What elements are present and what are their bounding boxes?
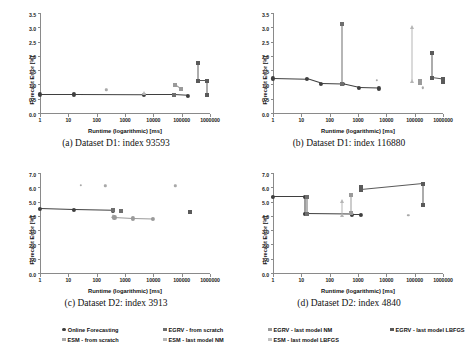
x-tick-label: 100000: [173, 277, 190, 283]
y-tick-label: 6.0: [29, 186, 36, 192]
data-point: [421, 182, 425, 186]
x-tick-label: 100: [325, 117, 333, 123]
legend-marker: [62, 338, 66, 342]
x-tick-label: 10: [299, 277, 305, 283]
data-point: [38, 92, 42, 96]
x-tick-label: 10: [66, 277, 72, 283]
data-point: [196, 79, 200, 83]
legend-label: ESM - last model NM: [169, 337, 224, 343]
y-tick: [271, 27, 274, 28]
x-tick-label: 1000000: [200, 117, 220, 123]
y-tick: [38, 56, 41, 57]
data-point: [80, 184, 82, 186]
x-axis-title-c: Runtime (logarithmic) [ms]: [40, 288, 210, 294]
x-tick-label: 100: [92, 277, 100, 283]
subplot-a: Forecast Error [%] 0.00.51.01.52.02.53.0…: [0, 0, 232, 160]
data-point: [340, 213, 344, 217]
data-point: [72, 208, 76, 212]
data-point: [377, 86, 381, 90]
y-tick: [271, 70, 274, 71]
legend-label: EGRV - last model LBFGS: [396, 327, 465, 333]
y-tick: [38, 244, 41, 245]
x-tick-label: 1000: [119, 277, 130, 283]
y-tick-label: 3.5: [29, 12, 36, 18]
data-point: [72, 92, 76, 96]
y-tick: [271, 84, 274, 85]
data-point: [319, 82, 323, 86]
y-tick-label: 3.0: [29, 26, 36, 32]
data-point: [119, 209, 123, 213]
x-tick-label: 10000: [379, 117, 393, 123]
y-tick: [271, 259, 274, 260]
y-tick: [38, 84, 41, 85]
y-tick-label: 0.0: [262, 272, 269, 278]
data-point: [142, 91, 146, 95]
series-line: [321, 83, 343, 85]
y-tick-label: 3.5: [262, 12, 269, 18]
x-tick-label: 1: [272, 277, 275, 283]
legend-item: Online Forecasting: [62, 326, 118, 333]
y-tick-label: 1.0: [262, 257, 269, 263]
x-tick-label: 1000: [352, 277, 363, 283]
series-line: [351, 194, 352, 212]
data-point: [111, 208, 115, 212]
data-point: [172, 93, 176, 97]
y-tick: [38, 27, 41, 28]
data-point: [205, 93, 209, 97]
plot-area-a: 0.00.51.01.52.02.53.03.51101001000100001…: [40, 14, 210, 114]
y-tick-label: 2.5: [29, 40, 36, 46]
y-tick-label: 1.5: [29, 69, 36, 75]
series-line: [423, 184, 424, 205]
y-tick-label: 7.0: [262, 172, 269, 178]
y-tick-label: 0.5: [262, 97, 269, 103]
data-point: [430, 51, 434, 55]
series-line: [198, 62, 199, 81]
y-tick: [271, 56, 274, 57]
legend-marker: [268, 328, 272, 332]
y-tick-label: 0.5: [29, 97, 36, 103]
series-line: [361, 183, 423, 190]
x-tick-label: 100: [92, 117, 100, 123]
caption-d: (d) Dataset D2: index 4840: [233, 298, 465, 308]
caption-c: (c) Dataset D2: index 3913: [0, 298, 232, 308]
y-tick: [271, 216, 274, 217]
y-tick-label: 2.5: [262, 40, 269, 46]
data-point: [349, 211, 353, 215]
data-point: [271, 195, 275, 199]
data-point: [38, 207, 42, 211]
y-tick-label: 1.0: [29, 83, 36, 89]
x-tick-label: 10: [299, 117, 305, 123]
y-tick: [271, 13, 274, 14]
y-tick: [271, 202, 274, 203]
data-point: [305, 77, 309, 81]
data-point: [179, 87, 183, 91]
x-axis-title-a: Runtime (logarithmic) [ms]: [40, 128, 210, 134]
x-tick-label: 100000: [406, 277, 423, 283]
series-line: [40, 208, 74, 210]
y-tick: [38, 187, 41, 188]
y-tick-label: 1.0: [29, 257, 36, 263]
data-point: [418, 81, 422, 85]
caption-b: (b) Dataset D1: index 116880: [233, 138, 465, 148]
x-tick-label: 10000: [146, 117, 160, 123]
y-tick-label: 5.0: [29, 200, 36, 206]
legend-marker: [268, 338, 272, 342]
legend-label: ESM - from scratch: [68, 337, 119, 343]
data-point: [359, 188, 363, 192]
legend-item: ESM - last model LBFGS: [268, 336, 339, 343]
series-line: [74, 94, 143, 95]
y-tick: [271, 42, 274, 43]
data-point: [359, 213, 363, 217]
data-point: [205, 79, 209, 83]
figure-forecast-error-vs-runtime: Forecast Error [%] 0.00.51.01.52.02.53.0…: [0, 0, 465, 362]
y-tick-label: 1.0: [262, 83, 269, 89]
x-tick-label: 10000: [379, 277, 393, 283]
y-tick-label: 6.0: [262, 186, 269, 192]
data-point: [271, 76, 275, 80]
y-tick-label: 0.0: [262, 112, 269, 118]
y-tick: [38, 70, 41, 71]
data-point: [410, 25, 414, 29]
x-tick-label: 1000000: [433, 277, 453, 283]
y-tick-label: 2.0: [262, 54, 269, 60]
data-point: [375, 79, 377, 81]
